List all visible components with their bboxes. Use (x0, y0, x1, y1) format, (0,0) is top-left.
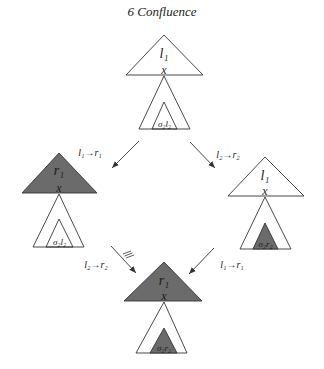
joint-label: x (160, 63, 167, 77)
upper-label: r₁ (159, 273, 169, 288)
arrow-line (112, 141, 139, 168)
confluence-diagram: l₁ x σ₂l₂ r₁ x σ₂l₂ l₁ x σ₂r₂ r₁ x σ₂r₂ … (0, 0, 324, 369)
arrow-bottom-right: l₁→r₁ (189, 248, 244, 274)
upper-label: r₁ (54, 163, 64, 178)
arrow-label: l₂→r₂ (84, 259, 108, 270)
arrow-label: l₂→r₂ (216, 149, 240, 160)
arrow-line (190, 142, 215, 168)
arrow-line (189, 248, 214, 274)
arrow-bottom-left: l₂→r₂ (84, 246, 136, 273)
inner-label: σ₂r₂ (258, 239, 272, 249)
joint-label: x (261, 184, 268, 198)
joint-label: x (160, 289, 167, 303)
upper-label: l₁ (160, 46, 169, 61)
arrow-top-right: l₂→r₂ (190, 142, 240, 168)
upper-label: l₁ (261, 168, 270, 183)
joint-label: x (55, 181, 62, 195)
inner-label: σ₂l₂ (53, 237, 66, 247)
tree-left: r₁ x σ₂l₂ (22, 153, 97, 247)
tree-top: l₁ x σ₂l₂ (126, 35, 203, 129)
arrow-line (111, 246, 136, 273)
equivalence-mark-icon (123, 251, 134, 258)
arrow-label: l₁→r₁ (78, 147, 102, 158)
tree-bottom: r₁ x σ₂r₂ (124, 262, 202, 353)
inner-label: σ₂l₂ (158, 119, 171, 129)
arrow-top-left: l₁→r₁ (78, 141, 139, 168)
arrow-label: l₁→r₁ (220, 259, 244, 270)
tree-right: l₁ x σ₂r₂ (228, 157, 304, 249)
inner-label: σ₂r₂ (157, 343, 171, 353)
